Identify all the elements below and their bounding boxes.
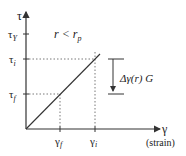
gamma-i-label: γi — [89, 135, 97, 149]
y-axis-symbol: τ — [17, 9, 22, 23]
x-axis-label: (strain) — [146, 137, 175, 149]
stress-strain-diagram: τ τY τi τf r < rp Δγ(r) G γf γi γ (strai… — [0, 0, 186, 156]
x-axis-symbol: γ — [161, 122, 168, 136]
condition-label: r < rp — [54, 27, 81, 43]
tau-y-label: τY — [8, 28, 18, 43]
tau-f-label: τf — [9, 88, 17, 103]
delta-gamma-g-label: Δγ(r) G — [119, 72, 153, 85]
elastic-line — [26, 54, 100, 129]
gamma-f-label: γf — [54, 135, 64, 149]
tau-i-label: τi — [9, 53, 16, 68]
